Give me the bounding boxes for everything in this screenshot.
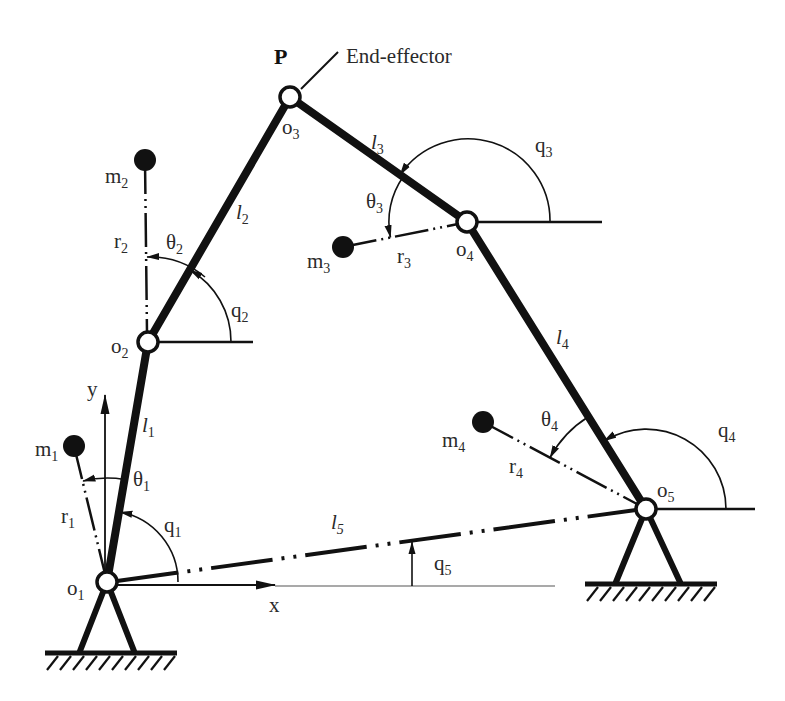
label-theta2: θ2 <box>166 230 183 257</box>
angle-theta1-arc <box>83 478 125 481</box>
mass-offset-line-r1 <box>74 446 106 578</box>
label-r3: r3 <box>397 244 411 271</box>
label-r4: r4 <box>509 454 523 481</box>
ground-hatch-icon <box>47 656 175 670</box>
label-l2: l2 <box>236 200 249 227</box>
label-m1: m1 <box>35 437 58 464</box>
label-point-P: P <box>274 44 287 69</box>
label-m4: m4 <box>442 428 465 455</box>
ground-support-o5 <box>585 509 717 601</box>
angle-q2-arc <box>190 270 231 342</box>
mass-m1-icon <box>63 435 85 457</box>
label-theta1: θ1 <box>133 467 150 494</box>
five-bar-mechanism-diagram: P End-effector o1 o2 o3 o4 o5 l1 l2 l3 l… <box>0 0 785 701</box>
label-theta4: θ4 <box>541 407 558 434</box>
label-q1: q1 <box>164 513 182 540</box>
link-l5-ground-line <box>117 510 636 581</box>
link-l1 <box>107 342 148 582</box>
end-effector-leader-line <box>301 52 338 89</box>
mass-offset-line-r2 <box>145 160 147 333</box>
label-q4: q4 <box>718 418 736 445</box>
mass-m4-icon <box>472 411 494 433</box>
link-l2 <box>148 97 290 342</box>
label-l4: l4 <box>556 325 569 352</box>
label-m3: m3 <box>307 249 330 276</box>
label-l3: l3 <box>371 130 384 157</box>
label-r2: r2 <box>114 229 128 256</box>
label-q2: q2 <box>231 298 249 325</box>
label-q3: q3 <box>535 133 553 160</box>
label-o5: o5 <box>657 478 675 505</box>
label-x-axis: x <box>269 593 280 617</box>
angle-theta3-arc <box>389 177 403 237</box>
label-o1: o1 <box>67 576 85 603</box>
ground-support-o1 <box>45 582 177 670</box>
label-y-axis: y <box>87 377 98 401</box>
label-o3: o3 <box>282 115 300 142</box>
joint-o1-icon <box>97 572 117 592</box>
joint-o2-icon <box>138 332 158 352</box>
label-o4: o4 <box>456 237 474 264</box>
mass-m3-icon <box>332 236 354 258</box>
label-l5: l5 <box>331 510 344 537</box>
label-end-effector: End-effector <box>346 44 452 68</box>
joint-o5-icon <box>636 499 656 519</box>
mass-m2-icon <box>134 149 156 171</box>
label-m2: m2 <box>105 164 128 191</box>
label-theta3: θ3 <box>366 189 383 216</box>
label-o2: o2 <box>111 334 129 361</box>
link-l4 <box>467 222 646 509</box>
label-q5: q5 <box>434 551 452 578</box>
joint-o4-icon <box>457 212 477 232</box>
joint-o3-icon <box>280 87 300 107</box>
angle-q3-arc <box>400 139 550 222</box>
label-l1: l1 <box>142 413 155 440</box>
ground-hatch-icon <box>587 587 715 601</box>
label-r1: r1 <box>61 504 75 531</box>
